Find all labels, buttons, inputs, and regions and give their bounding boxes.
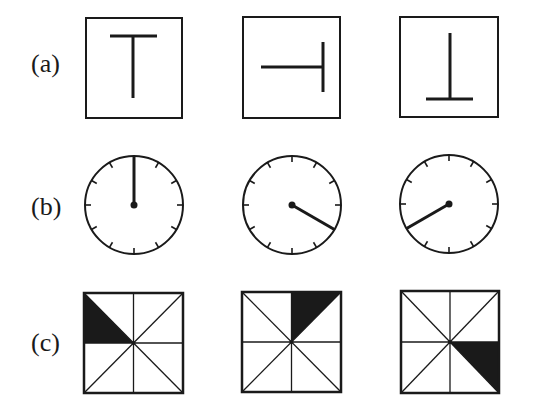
t-shape-down-icon — [426, 33, 473, 99]
center-dot — [290, 340, 294, 344]
clock-tick — [314, 242, 317, 247]
clock-tick — [268, 242, 271, 247]
clock-tick — [156, 242, 159, 247]
clock-tick — [250, 181, 255, 184]
clock-tick — [171, 181, 176, 184]
clock-hand-icon — [292, 205, 334, 230]
clock-center-dot — [289, 202, 296, 209]
row-b-clock-2 — [243, 156, 341, 254]
row-b-clock-1 — [85, 156, 183, 254]
t-shape-up-icon — [110, 36, 157, 98]
clock-tick — [407, 180, 412, 183]
clock-tick — [314, 163, 317, 168]
clock-tick — [471, 241, 474, 246]
row-a-panel-3 — [400, 17, 498, 117]
clock-tick — [92, 227, 97, 230]
clock-tick — [486, 180, 491, 183]
clock-center-dot — [131, 202, 138, 209]
clock-tick — [329, 181, 334, 184]
clock-center-dot — [446, 201, 453, 208]
clock-tick — [471, 162, 474, 167]
row-c-panel-1 — [84, 293, 183, 393]
center-dot — [448, 340, 452, 344]
clock-tick — [250, 227, 255, 230]
clock-tick — [486, 226, 491, 229]
center-dot — [132, 341, 136, 345]
row-a-panel-1 — [86, 18, 182, 118]
clock-tick — [425, 241, 428, 246]
clock-tick — [171, 227, 176, 230]
clock-tick — [268, 163, 271, 168]
t-shape-right-icon — [261, 42, 323, 92]
clock-tick — [110, 163, 113, 168]
clock-tick — [156, 163, 159, 168]
clock-tick — [425, 162, 428, 167]
clock-tick — [110, 242, 113, 247]
clock-hand-icon — [407, 204, 449, 229]
clock-tick — [92, 181, 97, 184]
row-c-panel-3 — [401, 291, 499, 393]
row-b-clock-3 — [400, 155, 498, 253]
row-c-panel-2 — [242, 292, 341, 392]
row-a-panel-2 — [243, 17, 340, 118]
